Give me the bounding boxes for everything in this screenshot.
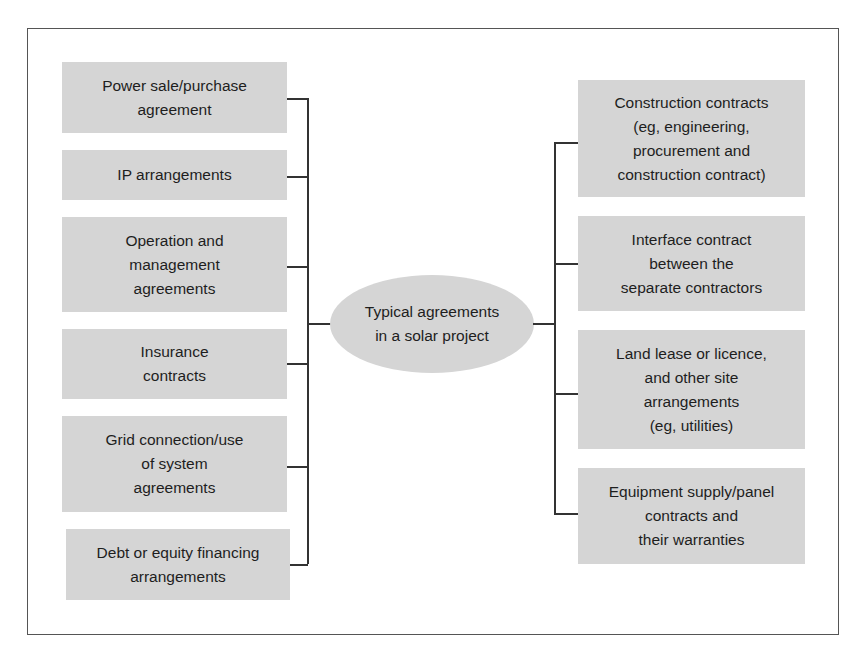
center-to-right-connector: [533, 323, 555, 325]
center-node: Typical agreements in a solar project: [330, 275, 534, 373]
box-label: Construction contracts (eg, engineering,…: [614, 91, 768, 187]
left-connector: [287, 363, 308, 365]
left-to-center-connector: [307, 323, 331, 325]
left-connector: [287, 176, 308, 178]
right-connector: [554, 263, 578, 265]
right-connector: [554, 393, 578, 395]
box-label: Operation and management agreements: [125, 229, 223, 301]
right-connector: [554, 513, 578, 515]
center-label: Typical agreements in a solar project: [365, 300, 499, 348]
box-label: Interface contract between the separate …: [621, 228, 762, 300]
right-bracket-vertical: [554, 142, 556, 514]
box-label: Land lease or licence, and other site ar…: [616, 342, 767, 438]
left-box-debt: Debt or equity financing arrangements: [66, 529, 290, 600]
left-bracket-vertical: [307, 98, 309, 564]
right-box-equipment: Equipment supply/panel contracts and the…: [578, 468, 805, 564]
left-box-operation: Operation and management agreements: [62, 217, 287, 312]
box-label: Equipment supply/panel contracts and the…: [609, 480, 774, 552]
right-box-construction: Construction contracts (eg, engineering,…: [578, 80, 805, 197]
left-box-grid: Grid connection/use of system agreements: [62, 416, 287, 512]
box-label: IP arrangements: [117, 163, 231, 187]
left-box-insurance: Insurance contracts: [62, 329, 287, 399]
left-box-ip: IP arrangements: [62, 150, 287, 200]
left-connector: [287, 266, 308, 268]
box-label: Grid connection/use of system agreements: [106, 428, 244, 500]
box-label: Debt or equity financing arrangements: [97, 541, 260, 589]
left-box-power-sale: Power sale/purchase agreement: [62, 62, 287, 133]
left-connector: [290, 564, 308, 566]
right-box-land-lease: Land lease or licence, and other site ar…: [578, 330, 805, 449]
box-label: Power sale/purchase agreement: [102, 74, 247, 122]
left-connector: [287, 98, 308, 100]
box-label: Insurance contracts: [140, 340, 208, 388]
right-connector: [554, 142, 578, 144]
left-connector: [287, 466, 308, 468]
right-box-interface: Interface contract between the separate …: [578, 216, 805, 311]
